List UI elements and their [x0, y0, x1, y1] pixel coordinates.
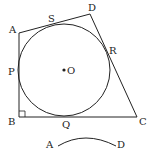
center-point-o: [62, 68, 65, 71]
label-p: P: [8, 66, 15, 77]
label-s: S: [48, 13, 55, 24]
label-c: C: [139, 116, 147, 127]
geometry-diagram: A S D R P O B Q C A D: [0, 0, 150, 148]
second-label-a: A: [45, 139, 54, 148]
label-b: B: [8, 116, 15, 127]
label-d: D: [88, 2, 96, 13]
quadrilateral-abcd: [19, 14, 137, 117]
label-a: A: [8, 24, 17, 35]
label-o: O: [67, 65, 75, 76]
right-angle-marker: [19, 111, 25, 117]
label-r: R: [109, 45, 117, 56]
second-label-d: D: [117, 139, 125, 148]
second-figure-arc: [58, 138, 116, 146]
label-q: Q: [62, 119, 70, 130]
